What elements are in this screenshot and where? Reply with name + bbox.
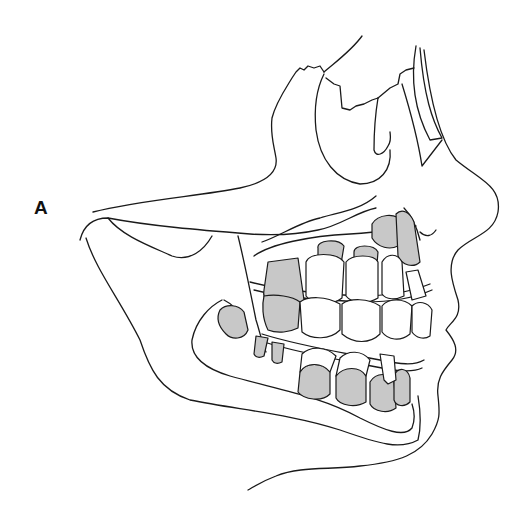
occluding-crowns	[263, 295, 432, 341]
orbit-outline	[93, 36, 414, 212]
anatomical-illustration: A	[0, 0, 528, 508]
nasal-bone-outline	[402, 46, 442, 166]
skull-jaw-drawing	[0, 0, 528, 508]
